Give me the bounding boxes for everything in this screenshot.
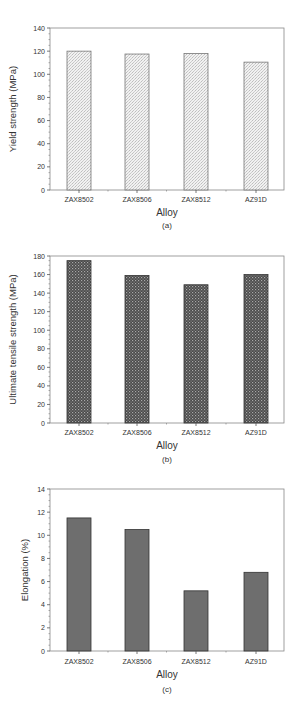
x-axis-label: Alloy bbox=[156, 669, 178, 680]
bar-chart-c: 02468101214ZAX8502ZAX8506ZAX8512AZ91DAll… bbox=[0, 480, 300, 707]
y-tick-label: 40 bbox=[37, 382, 45, 389]
y-tick-label: 80 bbox=[37, 345, 45, 352]
x-tick-label: ZAX8512 bbox=[181, 196, 210, 203]
y-axis-label: Ultimate tensile strength (MPa) bbox=[7, 274, 18, 404]
bar-chart-b: 020406080100120140160180ZAX8502ZAX8506ZA… bbox=[0, 235, 300, 470]
y-tick-label: 6 bbox=[41, 578, 45, 585]
y-tick-label: 120 bbox=[33, 48, 45, 55]
x-tick-label: ZAX8502 bbox=[64, 429, 93, 436]
x-tick-label: AZ91D bbox=[245, 429, 267, 436]
bar-zax8502 bbox=[67, 51, 91, 190]
bar-zax8506 bbox=[125, 54, 149, 190]
y-tick-label: 180 bbox=[33, 253, 45, 260]
y-tick-label: 140 bbox=[33, 25, 45, 32]
panel-caption: (c) bbox=[162, 685, 172, 694]
bar-zax8512 bbox=[184, 591, 208, 651]
bar-az91d bbox=[244, 275, 268, 423]
panel-caption: (b) bbox=[162, 455, 172, 464]
x-tick-label: AZ91D bbox=[245, 196, 267, 203]
x-axis-label: Alloy bbox=[156, 440, 178, 451]
y-tick-label: 140 bbox=[33, 290, 45, 297]
x-axis-label: Alloy bbox=[156, 207, 178, 218]
x-tick-label: ZAX8512 bbox=[181, 429, 210, 436]
bar-az91d bbox=[244, 62, 268, 190]
panel-caption: (a) bbox=[162, 221, 172, 230]
y-tick-label: 8 bbox=[41, 555, 45, 562]
bar-zax8502 bbox=[67, 518, 91, 651]
y-tick-label: 0 bbox=[41, 187, 45, 194]
x-tick-label: ZAX8506 bbox=[122, 196, 151, 203]
bar-zax8506 bbox=[125, 275, 149, 423]
x-tick-label: AZ91D bbox=[245, 658, 267, 665]
x-tick-label: ZAX8502 bbox=[64, 658, 93, 665]
y-tick-label: 14 bbox=[37, 486, 45, 493]
y-axis-label: Elongation (%) bbox=[19, 539, 30, 601]
bar-chart-a: 020406080100120140ZAX8502ZAX8506ZAX8512A… bbox=[0, 0, 300, 235]
bar-zax8512 bbox=[184, 53, 208, 190]
y-tick-label: 60 bbox=[37, 117, 45, 124]
x-tick-label: ZAX8506 bbox=[122, 429, 151, 436]
y-tick-label: 100 bbox=[33, 71, 45, 78]
y-tick-label: 4 bbox=[41, 601, 45, 608]
y-tick-label: 160 bbox=[33, 271, 45, 278]
y-tick-label: 60 bbox=[37, 364, 45, 371]
y-tick-label: 20 bbox=[37, 401, 45, 408]
y-tick-label: 80 bbox=[37, 94, 45, 101]
bar-zax8502 bbox=[67, 261, 91, 423]
x-tick-label: ZAX8506 bbox=[122, 658, 151, 665]
bar-zax8512 bbox=[184, 285, 208, 423]
y-tick-label: 120 bbox=[33, 308, 45, 315]
y-axis-label: Yield strength (MPa) bbox=[7, 66, 18, 152]
y-tick-label: 0 bbox=[41, 420, 45, 427]
y-tick-label: 20 bbox=[37, 163, 45, 170]
x-tick-label: ZAX8512 bbox=[181, 658, 210, 665]
bar-az91d bbox=[244, 572, 268, 651]
x-tick-label: ZAX8502 bbox=[64, 196, 93, 203]
y-tick-label: 0 bbox=[41, 648, 45, 655]
y-tick-label: 40 bbox=[37, 140, 45, 147]
y-tick-label: 10 bbox=[37, 532, 45, 539]
y-tick-label: 100 bbox=[33, 327, 45, 334]
y-tick-label: 2 bbox=[41, 624, 45, 631]
y-tick-label: 12 bbox=[37, 509, 45, 516]
bar-zax8506 bbox=[125, 530, 149, 652]
